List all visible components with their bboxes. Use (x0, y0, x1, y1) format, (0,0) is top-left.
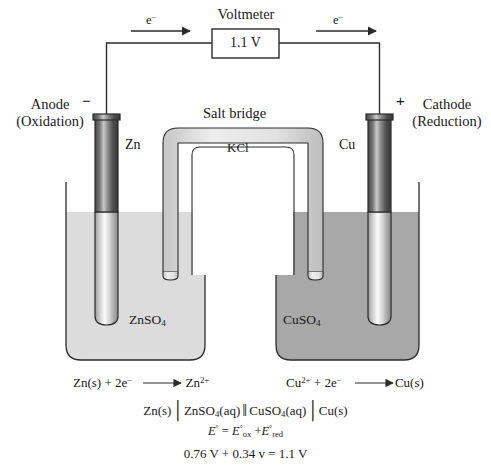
notation-cathode-metal: Cu(s) (319, 403, 348, 418)
reduction-reactant-charge: 2+ (301, 375, 310, 385)
solution-cuso4 (276, 212, 419, 360)
half-reaction-reduction: Cu2+ + 2e− Cu(s) (286, 375, 424, 390)
formula-e-red-subscript: red (272, 429, 283, 439)
reduction-reactant: Cu (286, 375, 301, 390)
cathode-polarity-sign: + (396, 92, 405, 110)
electron-charge-right: − (339, 12, 344, 22)
copper-electrode-cap (366, 114, 393, 120)
solution-label-cuso4: CuSO4 (283, 312, 321, 329)
copper-electrode-label: Cu (339, 137, 355, 154)
notation-separator-1: │ (171, 400, 183, 420)
notation-cathode-solution: CuSO (249, 403, 281, 418)
znso4-formula: ZnSO (129, 312, 161, 327)
electron-label-left: e− (146, 12, 156, 27)
cathode-label: Cathode (Reduction) (404, 96, 490, 130)
zinc-electrode-cap (93, 114, 120, 120)
solution-label-znso4: ZnSO4 (129, 312, 166, 329)
oxidation-product: Zn (186, 375, 200, 390)
solution-znso4 (66, 212, 205, 360)
znso4-subscript: 4 (161, 318, 166, 328)
anode-label: Anode (Oxidation) (8, 96, 92, 130)
cathode-label-line1: Cathode (404, 96, 490, 113)
zinc-electrode-submerged (95, 212, 118, 325)
oxidation-product-charge: 2+ (200, 375, 209, 385)
cuso4-subscript: 4 (316, 318, 321, 328)
electron-charge-left: − (152, 12, 157, 22)
formula-e-ox: E (232, 424, 240, 438)
reduction-electron-charge: − (337, 375, 342, 385)
reduction-reactant-rest: + 2e (311, 375, 337, 390)
oxidation-reactant-charge: − (127, 375, 132, 385)
salt-bridge-leg-left (163, 272, 178, 280)
oxidation-reactant: Zn(s) + 2e (73, 375, 127, 390)
formula-e-cell-degree: ° (216, 424, 219, 433)
copper-electrode-submerged (368, 212, 391, 325)
formula-e-ox-subscript: ox (243, 429, 252, 439)
electrochemical-cell-diagram: Voltmeter 1.1 V e− e− Anode (Oxidation) … (0, 0, 491, 474)
salt-bridge-cavity (193, 148, 293, 275)
wire-voltmeter-to-cathode (279, 43, 380, 114)
voltmeter-label: Voltmeter (206, 6, 286, 23)
potential-values: 0.76 V + 0.34 v = 1.1 V (0, 446, 491, 461)
formula-e-cell: E (208, 424, 216, 438)
electron-label-right: e− (333, 12, 343, 27)
voltmeter-reading: 1.1 V (212, 35, 279, 52)
notation-salt-bridge-separator: ‖ (240, 400, 249, 420)
notation-separator-2: │ (306, 400, 318, 420)
salt-bridge-leg-right (308, 272, 323, 280)
copper-electrode-upper (368, 117, 391, 212)
notation-anode-metal: Zn(s) (143, 403, 171, 418)
notation-cathode-phase: (aq) (285, 403, 306, 418)
standard-potential-formula: E° = E°ox +E°red (0, 424, 491, 439)
notation-anode-phase: (aq) (219, 403, 240, 418)
anode-label-line1: Anode (8, 96, 92, 113)
cuso4-formula: CuSO (283, 312, 316, 327)
cell-notation: Zn(s)│ZnSO4(aq)‖CuSO4(aq)│Cu(s) (0, 400, 491, 421)
reduction-product: Cu(s) (395, 375, 424, 390)
notation-anode-solution: ZnSO (184, 403, 215, 418)
cathode-label-line2: (Reduction) (404, 113, 490, 130)
formula-equals: = (222, 424, 229, 438)
anode-label-line2: (Oxidation) (8, 113, 92, 130)
zinc-electrode-label: Zn (125, 137, 141, 154)
wire-anode-to-voltmeter (107, 43, 213, 114)
zinc-electrode-upper (95, 117, 118, 212)
half-reaction-oxidation: Zn(s) + 2e− Zn2+ (73, 375, 209, 390)
kcl-label: KCl (227, 140, 249, 155)
anode-polarity-sign: − (82, 92, 91, 110)
salt-bridge-label: Salt bridge (203, 105, 266, 122)
formula-e-red: E (261, 424, 269, 438)
